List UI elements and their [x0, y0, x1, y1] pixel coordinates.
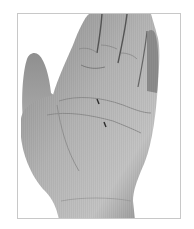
photo-frame: Grayscale photo of an open left palm wit…: [17, 13, 181, 219]
hand: [21, 14, 159, 219]
palm-photo: [18, 14, 181, 219]
